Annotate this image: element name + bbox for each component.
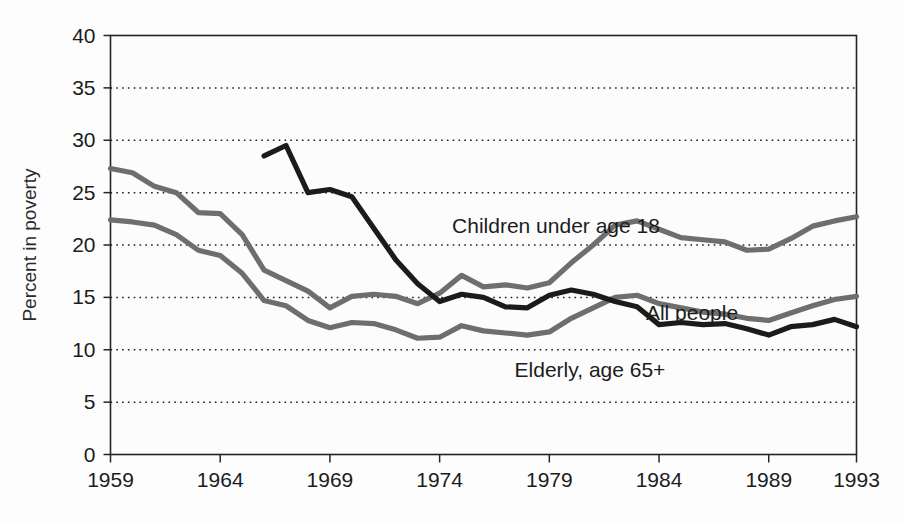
chart-canvas: 0510152025303540 19591964196919741979198… <box>0 0 903 524</box>
x-tick-label-1993: 1993 <box>833 468 880 491</box>
y-tick-label-40: 40 <box>72 24 95 47</box>
x-tick-label-1969: 1969 <box>307 468 354 491</box>
plot-area-frame <box>111 36 857 455</box>
poverty-rate-chart: 0510152025303540 19591964196919741979198… <box>0 0 903 524</box>
y-tick-label-5: 5 <box>84 390 96 413</box>
y-tick-label-35: 35 <box>72 76 95 99</box>
y-tick-label-10: 10 <box>72 338 95 361</box>
y-tick-label-20: 20 <box>72 233 95 256</box>
x-tick-label-1979: 1979 <box>526 468 573 491</box>
series-annotation-1: All people <box>646 301 738 324</box>
x-tick-label-1984: 1984 <box>636 468 683 491</box>
series-annotation-2: Elderly, age 65+ <box>515 358 666 381</box>
y-tick-label-15: 15 <box>72 285 95 308</box>
x-tick-label-1959: 1959 <box>87 468 134 491</box>
series-annotation-0: Children under age 18 <box>452 214 660 237</box>
y-tick-label-0: 0 <box>84 443 96 466</box>
y-tick-label-25: 25 <box>72 181 95 204</box>
y-tick-label-30: 30 <box>72 128 95 151</box>
x-tick-label-1974: 1974 <box>416 468 463 491</box>
x-tick-label-1989: 1989 <box>745 468 792 491</box>
x-tick-label-1964: 1964 <box>197 468 244 491</box>
y-axis-title: Percent in poverty <box>19 168 40 322</box>
